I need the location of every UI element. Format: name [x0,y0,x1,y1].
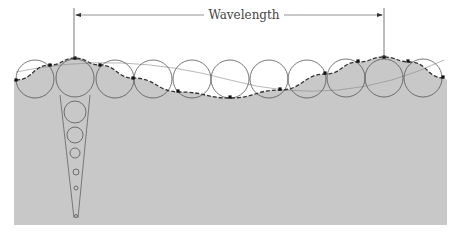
water-particle-dot [131,76,134,79]
orbit-circle [211,60,249,98]
wavelength-label: Wavelength [204,8,284,22]
arrow-left-icon [75,13,81,17]
water-particle-dot [48,63,51,66]
water-particle-dot [228,95,231,98]
water-particle-dot [14,78,17,81]
water-particle-dot [323,71,326,74]
water-particle-dot [278,87,281,90]
wave-orbit-diagram [0,0,456,234]
water-particle-dot [406,59,409,62]
water-body [14,57,447,225]
water-particle-dot [176,89,179,92]
water-particle-dot [98,63,101,66]
water-particle-dot [441,75,444,78]
water-particle-dot [356,59,359,62]
arrow-right-icon [377,13,383,17]
